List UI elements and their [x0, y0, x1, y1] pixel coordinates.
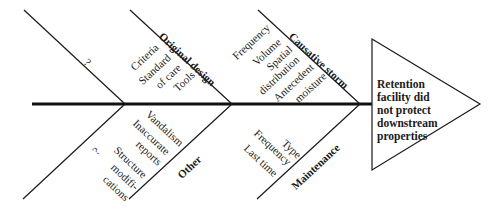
effect-line-3: not protect — [377, 104, 457, 117]
effect-line-4: downstream — [377, 117, 457, 130]
effect-line-2: facility did — [377, 91, 457, 104]
effect-line-1: Retention — [377, 78, 457, 91]
effect-label: Retention facility did not protect downs… — [377, 78, 457, 143]
bone-upper-left — [24, 10, 125, 104]
fishbone-diagram: ? ? Original design Criteria Standard of… — [0, 0, 503, 209]
effect-line-5: properties — [377, 130, 457, 143]
